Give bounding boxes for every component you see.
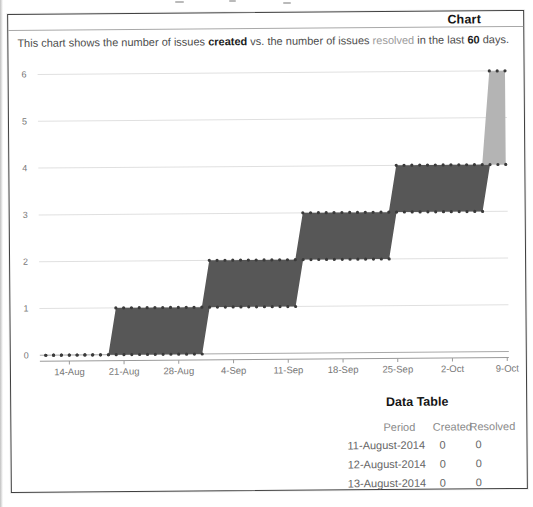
svg-text:2: 2 bbox=[23, 257, 28, 267]
x-axis-labels: 14-Aug21-Aug28-Aug4-Sep11-Sep18-Sep25-Se… bbox=[54, 363, 519, 378]
svg-text:3: 3 bbox=[23, 210, 28, 220]
desc-created-term: created bbox=[208, 35, 247, 47]
created-cell: 0 bbox=[440, 458, 446, 470]
svg-text:18-Sep: 18-Sep bbox=[328, 364, 359, 375]
title-separator-line bbox=[8, 26, 523, 31]
svg-text:11-Sep: 11-Sep bbox=[273, 364, 303, 375]
svg-text:14-Aug: 14-Aug bbox=[54, 366, 85, 377]
cropped-text-fragment bbox=[175, 1, 184, 3]
resolved-cell: 0 bbox=[475, 438, 481, 450]
chart-description: This chart shows the number of issues cr… bbox=[17, 33, 515, 49]
svg-text:4: 4 bbox=[22, 163, 27, 173]
svg-text:21-Aug: 21-Aug bbox=[109, 366, 140, 377]
gridlines bbox=[38, 71, 509, 355]
chart-canvas: 012345614-Aug21-Aug28-Aug4-Sep11-Sep18-S… bbox=[9, 59, 527, 388]
period-cell: 11-August-2014 bbox=[347, 439, 425, 452]
svg-text:2-Oct: 2-Oct bbox=[441, 363, 465, 374]
created-cell: 0 bbox=[439, 439, 445, 451]
period-cell: 13-August-2014 bbox=[348, 477, 426, 490]
desc-part: in the last bbox=[414, 33, 467, 45]
cropped-text-fragment bbox=[283, 2, 291, 4]
data-table: Data Table PeriodCreatedResolved 11-Augu… bbox=[11, 394, 527, 490]
chart-section-title: Chart bbox=[447, 12, 481, 26]
table-row: 12-August-201400 bbox=[11, 394, 526, 398]
desc-part: vs. the number of issues bbox=[247, 34, 372, 47]
svg-text:28-Aug: 28-Aug bbox=[163, 365, 194, 376]
svg-text:6: 6 bbox=[22, 70, 27, 80]
table-row: 11-August-201400 bbox=[11, 394, 526, 398]
svg-text:5: 5 bbox=[22, 116, 27, 126]
svg-text:0: 0 bbox=[24, 350, 29, 360]
svg-text:9-Oct: 9-Oct bbox=[496, 363, 520, 374]
created-cell: 0 bbox=[440, 477, 446, 489]
svg-text:4-Sep: 4-Sep bbox=[221, 365, 246, 376]
column-header-period: Period bbox=[383, 421, 415, 433]
created-vs-resolved-chart: 012345614-Aug21-Aug28-Aug4-Sep11-Sep18-S… bbox=[9, 59, 527, 388]
band-created-vs-resolved bbox=[44, 165, 491, 356]
column-header-resolved: Resolved bbox=[469, 420, 515, 432]
desc-days-count: 60 bbox=[467, 33, 479, 45]
data-table-title: Data Table bbox=[386, 395, 448, 409]
column-header-created: Created bbox=[433, 420, 472, 432]
cropped-text-fragment bbox=[229, 0, 236, 2]
desc-resolved-term: resolved bbox=[373, 34, 415, 46]
table-row: 13-August-201400 bbox=[11, 394, 526, 398]
report-box: Chart This chart shows the number of iss… bbox=[7, 10, 528, 493]
resolved-cell: 0 bbox=[476, 457, 482, 469]
svg-text:1: 1 bbox=[23, 304, 28, 314]
data-table-header-row: PeriodCreatedResolved bbox=[11, 394, 526, 398]
scan-edge-artifact bbox=[0, 0, 3, 507]
y-axis-labels: 0123456 bbox=[22, 70, 29, 361]
svg-text:25-Sep: 25-Sep bbox=[382, 363, 413, 374]
desc-part: This chart shows the number of issues bbox=[17, 35, 208, 48]
desc-part: days. bbox=[480, 33, 509, 45]
period-cell: 12-August-2014 bbox=[348, 458, 426, 471]
resolved-cell: 0 bbox=[476, 476, 482, 488]
